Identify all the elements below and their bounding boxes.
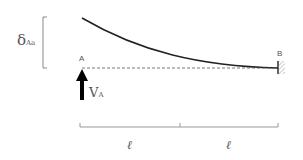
deflected-beam-curve: [82, 18, 278, 68]
diagram-svg: [0, 0, 303, 160]
reaction-label: VA: [89, 86, 103, 99]
beam-diagram: δAa A B VA ℓ ℓ: [0, 0, 303, 160]
deflection-label: δAa: [17, 33, 35, 48]
point-b-label: B: [277, 50, 282, 58]
reaction-subscript: A: [98, 91, 103, 99]
reaction-symbol: V: [89, 85, 98, 100]
reaction-arrow-head-icon: [76, 69, 88, 81]
point-a-label: A: [79, 55, 84, 63]
span-right-label: ℓ: [226, 139, 231, 151]
deflection-symbol: δ: [17, 31, 26, 49]
deflection-subscript: Aa: [26, 39, 35, 47]
fixed-support-hatch: [279, 61, 285, 74]
deflection-bracket: [43, 17, 47, 68]
span-left-label: ℓ: [127, 139, 132, 151]
